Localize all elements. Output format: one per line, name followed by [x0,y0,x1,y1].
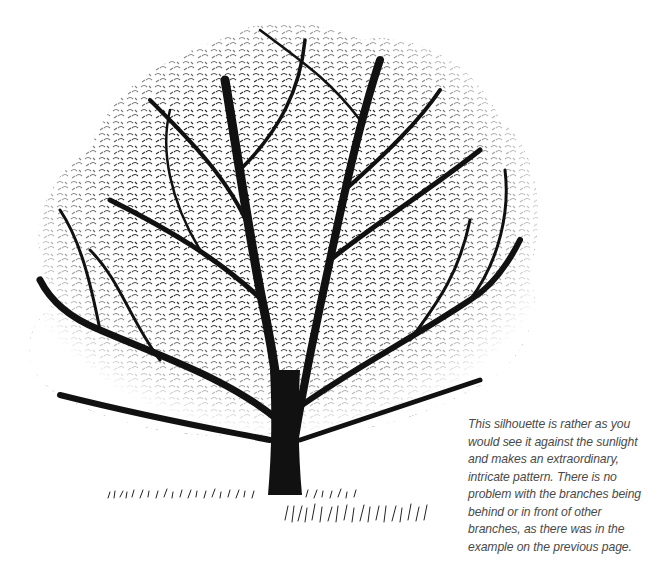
trunk [268,370,302,495]
caption-line: example on the previous page. [468,539,662,557]
caption-line: behind or in front of other [468,504,662,522]
caption-line: intricate pattern. There is no [468,469,662,487]
caption-text: This silhouette is rather as you would s… [468,416,662,556]
grass [108,489,427,522]
caption-line: and makes an extraordinary, [468,451,662,469]
caption-line: problem with the branches being [468,486,662,504]
caption-line: branches, as there was in the [468,521,662,539]
caption-line: This silhouette is rather as you [468,416,662,434]
caption-line: would see it against the sunlight [468,434,662,452]
